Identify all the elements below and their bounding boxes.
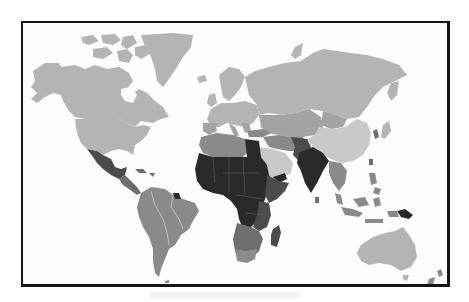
region-papua-new-guinea — [397, 209, 413, 219]
region-greenland — [141, 33, 193, 87]
region-korea — [373, 129, 379, 139]
north-america — [31, 33, 207, 195]
region-central-america — [119, 175, 141, 195]
region-japan — [381, 121, 391, 139]
region-malaysia — [335, 193, 343, 205]
region-alaska — [31, 63, 61, 103]
region-australia — [357, 227, 417, 271]
region-iberia — [203, 123, 217, 135]
region-south-africa — [235, 249, 257, 263]
region-madagascar — [271, 225, 281, 247]
region-indochina — [329, 161, 347, 191]
region-falklands — [165, 280, 169, 283]
region-arctic-islands — [81, 34, 151, 63]
region-new-guinea-west — [387, 211, 399, 217]
region-egypt — [245, 139, 261, 157]
region-united-states — [75, 119, 151, 155]
south-america — [137, 187, 199, 283]
region-indonesia — [341, 197, 383, 223]
region-caribbean — [135, 169, 155, 177]
region-canada — [61, 65, 169, 127]
region-north-africa — [199, 133, 249, 157]
region-sri-lanka — [315, 197, 319, 203]
region-philippines — [369, 173, 381, 195]
map-frame — [21, 21, 450, 287]
region-new-zealand — [427, 269, 443, 284]
region-novaya-zemlya — [291, 43, 303, 59]
region-south-america — [137, 187, 199, 277]
bleed-through-smudge — [150, 292, 300, 298]
oceania — [357, 227, 443, 284]
region-taiwan — [369, 159, 373, 165]
region-russia — [245, 49, 407, 119]
region-mexico — [87, 149, 127, 179]
world-choropleth-map — [23, 23, 447, 284]
region-uk — [207, 93, 217, 107]
region-iceland — [197, 75, 207, 83]
region-scandinavia — [219, 67, 245, 101]
region-tasmania — [403, 275, 409, 281]
